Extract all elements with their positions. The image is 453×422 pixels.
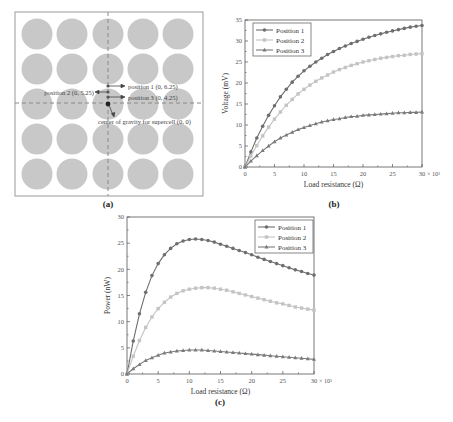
data-point	[391, 55, 394, 58]
supercell-circle	[22, 54, 53, 85]
data-point	[194, 237, 198, 241]
data-point	[262, 298, 265, 301]
data-point	[206, 286, 209, 289]
data-point	[379, 57, 382, 60]
series-position-2	[243, 52, 423, 169]
y-tick-label: 30	[118, 213, 125, 220]
data-point	[262, 258, 266, 262]
series-line	[127, 239, 314, 374]
data-point	[200, 238, 204, 242]
series-position-2	[125, 286, 315, 376]
supercell-circle	[128, 19, 159, 50]
data-point	[326, 73, 329, 76]
supercell-diagram: position 1 (0, 6.25) position 2 (0, 5.25…	[0, 0, 215, 210]
data-point	[373, 34, 377, 38]
x-tick-label: 20	[360, 170, 367, 177]
supercell-diagram-panel: position 1 (0, 6.25) position 2 (0, 5.25…	[0, 0, 215, 210]
data-point	[326, 53, 330, 57]
data-point	[367, 35, 371, 39]
data-point	[244, 251, 248, 255]
data-point	[408, 25, 412, 29]
data-point	[156, 307, 159, 310]
x-tick-label: 25	[389, 170, 396, 177]
voltage-chart-panel: 051015202530× 10³05101520253035Load resi…	[215, 0, 453, 210]
data-point	[219, 242, 223, 246]
data-point	[367, 59, 370, 62]
supercell-circle	[57, 159, 88, 190]
data-point	[265, 235, 268, 238]
data-point	[414, 52, 417, 55]
data-point	[169, 295, 172, 298]
data-point	[138, 312, 142, 316]
data-point	[213, 286, 216, 289]
data-point	[265, 225, 269, 229]
y-tick-label: 20	[118, 266, 125, 273]
data-point	[275, 301, 278, 304]
data-point	[302, 88, 305, 91]
x-tick-label: 0	[243, 170, 246, 177]
legend-label: Position 1	[276, 27, 305, 35]
legend-label: Position 2	[278, 234, 307, 242]
legend-label: Position 3	[278, 244, 307, 252]
data-point	[169, 247, 173, 251]
supercell-circle	[57, 54, 88, 85]
data-point	[181, 289, 184, 292]
x-tick-label: 30	[311, 377, 318, 384]
data-point	[300, 306, 303, 309]
data-point	[281, 302, 284, 305]
data-point	[181, 239, 185, 243]
data-point	[385, 30, 389, 34]
data-point	[349, 42, 353, 46]
legend-label: Position 3	[276, 47, 305, 55]
x-tick-label: 30	[419, 170, 426, 177]
data-point	[373, 58, 376, 61]
y-tick-label: 0	[121, 370, 124, 377]
data-point	[256, 296, 259, 299]
y-tick-label: 10	[118, 318, 125, 325]
data-point	[300, 270, 304, 274]
data-point	[312, 308, 315, 311]
data-point	[244, 293, 247, 296]
supercell-circle	[163, 54, 194, 85]
data-point	[231, 290, 234, 293]
data-point	[397, 54, 400, 57]
data-point	[261, 134, 264, 137]
x-multiplier-label: × 10³	[319, 378, 332, 384]
data-point	[338, 68, 341, 71]
data-point	[355, 62, 358, 65]
supercell-circle	[22, 124, 53, 155]
data-point	[150, 315, 153, 318]
data-point	[144, 291, 148, 295]
data-point	[279, 110, 282, 113]
x-tick-label: 5	[157, 377, 160, 384]
data-point	[344, 44, 348, 48]
data-point	[261, 124, 265, 128]
y-tick-label: 10	[236, 121, 243, 128]
data-point	[144, 326, 147, 329]
data-point	[409, 53, 412, 56]
x-tick-label: 20	[248, 377, 255, 384]
y-axis-label: Power (nW)	[103, 277, 112, 314]
supercell-circle	[22, 19, 53, 50]
position-3-arrowhead	[121, 95, 125, 98]
y-tick-label: 20	[236, 79, 243, 86]
data-point	[256, 255, 260, 259]
data-point	[338, 47, 342, 51]
position-3-label: position 3 (0, 4.25)	[128, 94, 178, 102]
data-point	[420, 24, 424, 28]
data-point	[194, 286, 197, 289]
data-point	[290, 80, 294, 84]
data-point	[281, 264, 285, 268]
data-point	[312, 273, 316, 277]
data-point	[250, 295, 253, 298]
supercell-circle	[163, 159, 194, 190]
data-point	[163, 253, 167, 257]
position-2-label: position 2 (0, 5.25)	[44, 89, 94, 97]
data-point	[225, 289, 228, 292]
data-point	[225, 245, 229, 249]
data-point	[306, 307, 309, 310]
legend: Position 1Position 2Position 3	[255, 220, 313, 253]
y-tick-label: 5	[239, 142, 242, 149]
position-1-arrowhead	[121, 84, 125, 87]
legend-label: Position 1	[278, 224, 307, 232]
